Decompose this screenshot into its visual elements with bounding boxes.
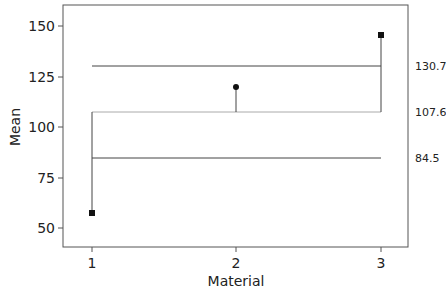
point-material-3 [378, 32, 384, 38]
udl-label: 130.7 [415, 60, 446, 73]
anom-chart: 150 125 100 75 50 Mean 1 2 3 Material 13… [0, 0, 446, 294]
point-material-1 [89, 210, 95, 216]
x-tick-3: 3 [377, 255, 386, 271]
y-axis-title: Mean [7, 108, 23, 146]
y-tick-125: 125 [28, 69, 55, 85]
x-tick-1: 1 [88, 255, 97, 271]
x-axis-title: Material [208, 273, 265, 289]
y-tick-100: 100 [28, 119, 55, 135]
ldl-label: 84.5 [415, 152, 440, 165]
y-axis: 150 125 100 75 50 Mean [7, 18, 63, 236]
y-tick-50: 50 [37, 220, 55, 236]
y-tick-75: 75 [37, 170, 55, 186]
point-material-2 [233, 84, 239, 90]
y-tick-150: 150 [28, 18, 55, 34]
x-tick-2: 2 [232, 255, 241, 271]
x-axis: 1 2 3 Material [88, 247, 386, 289]
center-label: 107.6 [415, 106, 446, 119]
plot-frame [63, 5, 408, 247]
